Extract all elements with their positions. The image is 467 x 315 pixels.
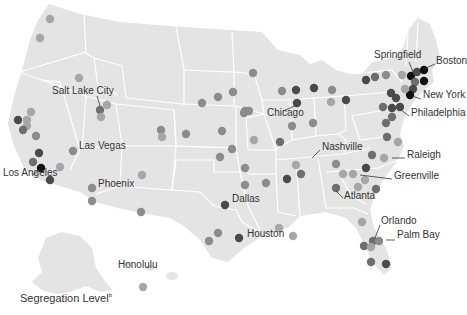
city-label: Chicago xyxy=(267,108,304,118)
city-label: Los Angeles xyxy=(3,168,58,178)
city-label: Palm Bay xyxy=(397,230,440,240)
metro-dot[interactable] xyxy=(139,283,147,291)
metro-dot[interactable] xyxy=(14,116,22,124)
metro-dot[interactable] xyxy=(292,86,300,94)
contiguous-us-land xyxy=(8,4,440,275)
metro-dot[interactable] xyxy=(327,98,335,106)
metro-dot[interactable] xyxy=(32,132,40,140)
metro-dot[interactable] xyxy=(292,161,300,169)
metro-dot[interactable] xyxy=(310,84,318,92)
metro-dot[interactable] xyxy=(401,85,409,93)
city-label: Boston xyxy=(436,56,467,66)
metro-dot[interactable] xyxy=(214,229,222,237)
city-label: Raleigh xyxy=(407,150,441,160)
metro-dot[interactable] xyxy=(19,126,27,134)
metro-dot[interactable] xyxy=(88,197,96,205)
hawaii-island xyxy=(166,272,178,280)
metro-dot[interactable] xyxy=(228,145,236,153)
metro-dot[interactable] xyxy=(276,138,284,146)
metro-dot[interactable] xyxy=(241,107,249,115)
metro-dot[interactable] xyxy=(394,138,402,146)
metro-dot[interactable] xyxy=(342,96,350,104)
metro-dot[interactable] xyxy=(396,103,404,111)
metro-dot[interactable] xyxy=(138,171,146,179)
metro-dot[interactable] xyxy=(221,201,229,209)
city-label: Philadelphia xyxy=(411,108,466,118)
metro-dot[interactable] xyxy=(382,119,390,127)
metro-dot[interactable] xyxy=(229,88,237,96)
city-label: Phoenix xyxy=(98,179,134,189)
metro-dot[interactable] xyxy=(29,158,37,166)
metro-dot[interactable] xyxy=(367,258,375,266)
city-label: Atlanta xyxy=(344,191,375,201)
legend-footnote-marker: b xyxy=(109,292,112,298)
metro-dot[interactable] xyxy=(368,151,376,159)
metro-dot[interactable] xyxy=(297,170,305,178)
metro-dot[interactable] xyxy=(218,127,226,135)
metro-dot[interactable] xyxy=(388,113,396,121)
metro-dot[interactable] xyxy=(97,113,105,121)
city-label: New York xyxy=(423,90,465,100)
metro-dot[interactable] xyxy=(262,179,270,187)
metro-dot[interactable] xyxy=(158,133,166,141)
legend-title: Segregation Levelb xyxy=(20,292,112,304)
metro-dot[interactable] xyxy=(35,149,43,157)
metro-dot[interactable] xyxy=(249,69,257,77)
legend-title-text: Segregation Level xyxy=(20,292,109,304)
metro-dot[interactable] xyxy=(382,71,390,79)
metro-dot[interactable] xyxy=(388,104,396,112)
metro-dot[interactable] xyxy=(379,103,387,111)
metro-dot[interactable] xyxy=(36,34,44,42)
metro-dot[interactable] xyxy=(278,87,286,95)
metro-dot[interactable] xyxy=(103,101,111,109)
metro-dot[interactable] xyxy=(382,260,390,268)
metro-dot[interactable] xyxy=(205,237,213,245)
metro-dot[interactable] xyxy=(362,164,370,172)
metro-dot[interactable] xyxy=(288,122,296,130)
metro-dot[interactable] xyxy=(289,232,297,240)
metro-dot[interactable] xyxy=(380,154,388,162)
metro-dot[interactable] xyxy=(375,237,383,245)
metro-dot[interactable] xyxy=(420,77,428,85)
metro-dot[interactable] xyxy=(198,99,206,107)
metro-dot[interactable] xyxy=(46,15,54,23)
metro-dot[interactable] xyxy=(137,208,145,216)
metro-dot[interactable] xyxy=(349,170,357,178)
city-label: Nashville xyxy=(322,142,363,152)
metro-dot[interactable] xyxy=(361,176,369,184)
metro-dot[interactable] xyxy=(214,93,222,101)
metro-dot[interactable] xyxy=(88,184,96,192)
metro-dot[interactable] xyxy=(241,181,249,189)
metro-dot[interactable] xyxy=(241,164,249,172)
alaska-land xyxy=(32,232,112,294)
metro-dot[interactable] xyxy=(339,170,347,178)
metro-dot[interactable] xyxy=(332,184,340,192)
metro-dot[interactable] xyxy=(283,175,291,183)
city-label: Greenville xyxy=(394,171,439,181)
city-label: Dallas xyxy=(232,194,260,204)
metro-dot[interactable] xyxy=(420,66,428,74)
metro-dot[interactable] xyxy=(75,74,83,82)
city-label: Honolulu xyxy=(118,260,157,270)
metro-dot[interactable] xyxy=(309,119,317,127)
metro-dot[interactable] xyxy=(69,147,77,155)
metro-dot[interactable] xyxy=(332,160,340,168)
city-label: Orlando xyxy=(381,216,417,226)
metro-dot[interactable] xyxy=(362,76,370,84)
metro-dot[interactable] xyxy=(392,94,400,102)
metro-dot[interactable] xyxy=(371,73,379,81)
metro-dot[interactable] xyxy=(250,136,258,144)
city-label: Houston xyxy=(247,229,284,239)
metro-dot[interactable] xyxy=(367,243,375,251)
metro-dot[interactable] xyxy=(358,218,366,226)
metro-dot[interactable] xyxy=(216,153,224,161)
metro-dot[interactable] xyxy=(328,86,336,94)
metro-dot[interactable] xyxy=(398,71,406,79)
metro-dot[interactable] xyxy=(383,133,391,141)
city-label: Salt Lake City xyxy=(52,86,114,96)
metro-dot[interactable] xyxy=(235,234,243,242)
city-label: Springfield xyxy=(374,50,421,60)
metro-dot[interactable] xyxy=(27,108,35,116)
metro-dot[interactable] xyxy=(182,130,190,138)
